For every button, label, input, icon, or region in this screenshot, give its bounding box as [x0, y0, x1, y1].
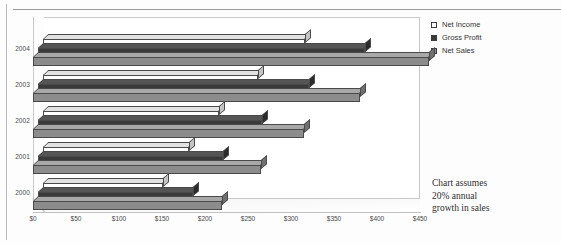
- bar-net-sales-2000: [33, 201, 222, 210]
- x-axis-tick-label: $50: [71, 215, 82, 222]
- annotation-line-2: 20% annual: [432, 190, 557, 203]
- bar-net-sales-2001: [33, 165, 261, 174]
- x-axis-line: [33, 212, 421, 213]
- bar-net-sales-2004: [33, 57, 429, 66]
- bar-face: [33, 165, 261, 174]
- x-axis-tick-label: $100: [112, 215, 126, 222]
- x-axis-tick-label: $450: [413, 215, 427, 222]
- x-axis-tick-label: $150: [155, 215, 169, 222]
- x-axis-tick-label: $0: [29, 215, 36, 222]
- legend-item-gross-profit[interactable]: Gross Profit: [431, 31, 551, 44]
- bar-face: [33, 93, 360, 102]
- legend-item-net-sales[interactable]: Net Sales: [431, 44, 551, 57]
- legend-swatch-icon: [431, 22, 437, 28]
- bar-face: [33, 129, 304, 138]
- legend-item-label: Net Sales: [442, 46, 475, 55]
- x-axis-tick-label: $400: [370, 215, 384, 222]
- y-axis-year-label: 2001: [2, 153, 30, 160]
- bar-side: [429, 47, 435, 61]
- x-axis-tick-label: $200: [198, 215, 212, 222]
- annotation-line-1: Chart assumes: [432, 177, 557, 190]
- bar-chart: 20042003200220012000 $0$50$100$150$200$2…: [0, 12, 430, 227]
- x-axis-tick-label: $250: [241, 215, 255, 222]
- y-axis-year-label: 2003: [2, 81, 30, 88]
- y-axis-year-label: 2004: [2, 45, 30, 52]
- chart-annotation: Chart assumes 20% annual growth in sales: [432, 177, 557, 215]
- y-axis-year-label: 2000: [2, 189, 30, 196]
- x-axis-tick-label: $300: [284, 215, 298, 222]
- chart-legend: Net IncomeGross ProfitNet Sales: [431, 18, 551, 57]
- y-axis-year-label: 2002: [2, 117, 30, 124]
- bar-face: [33, 201, 222, 210]
- legend-item-label: Gross Profit: [442, 33, 482, 42]
- legend-item-label: Net Income: [442, 20, 480, 29]
- bar-face: [33, 57, 429, 66]
- legend-swatch-icon: [431, 35, 437, 41]
- annotation-line-3: growth in sales: [432, 202, 557, 215]
- page-top-rule: [13, 9, 561, 10]
- bar-net-sales-2002: [33, 129, 304, 138]
- bar-net-sales-2003: [33, 93, 360, 102]
- legend-item-net-income[interactable]: Net Income: [431, 18, 551, 31]
- x-axis-tick-label: $350: [327, 215, 341, 222]
